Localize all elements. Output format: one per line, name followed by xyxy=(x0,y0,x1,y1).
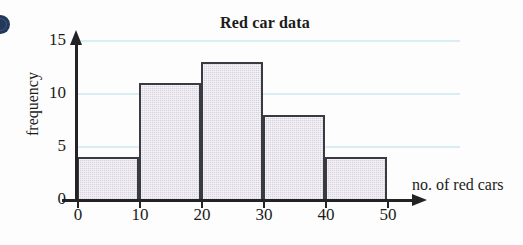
y-axis-line xyxy=(75,42,78,202)
gridline-15 xyxy=(78,40,460,42)
x-axis-arrow xyxy=(412,194,427,206)
chart-title: Red car data xyxy=(120,14,410,32)
x-tick-label-30: 30 xyxy=(244,205,284,225)
x-axis-line xyxy=(62,199,414,202)
x-tick-label-10: 10 xyxy=(120,205,160,225)
y-axis-arrow xyxy=(70,30,82,45)
x-tick-label-40: 40 xyxy=(306,205,346,225)
x-tick-label-20: 20 xyxy=(182,205,222,225)
x-axis-label: no. of red cars xyxy=(412,176,504,194)
bar-40-50 xyxy=(325,157,387,202)
y-axis-label: frequency xyxy=(24,49,42,159)
bar-20-30 xyxy=(201,62,263,202)
y-tick-label-15: 15 xyxy=(34,30,66,50)
y-tick-label-0: 0 xyxy=(34,189,66,209)
gridline-10 xyxy=(78,93,460,95)
x-tick-label-50: 50 xyxy=(368,205,408,225)
bar-0-10 xyxy=(77,157,139,202)
histogram-chart: Red car data 0 10 20 30 40 50 15 10 5 0 … xyxy=(0,0,523,245)
bar-30-40 xyxy=(263,115,325,202)
bar-10-20 xyxy=(139,83,201,202)
